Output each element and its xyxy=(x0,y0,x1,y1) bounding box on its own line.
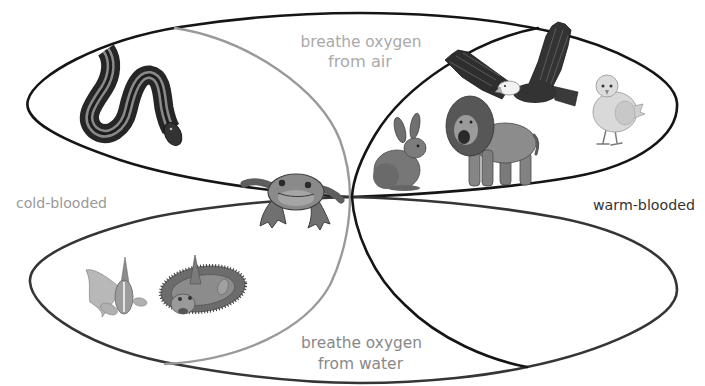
chick-icon xyxy=(593,75,645,145)
chick-tail xyxy=(634,104,645,118)
eagle-eye xyxy=(504,85,506,87)
chick-left-eye xyxy=(602,85,605,88)
goldfish-icon xyxy=(86,257,148,317)
flounder-mouth xyxy=(178,308,188,314)
cold-set-outline-top xyxy=(175,28,350,197)
lion-front-leg-2 xyxy=(482,150,493,186)
rabbit-feet xyxy=(390,185,420,191)
frog-left-arm xyxy=(244,182,272,186)
frog-right-eye xyxy=(305,182,311,188)
rabbit-right-ear xyxy=(408,112,421,139)
rabbit-eye xyxy=(417,145,420,148)
goldfish-right-fin xyxy=(132,297,147,307)
lion-icon xyxy=(446,96,538,186)
cold-label: cold-blooded xyxy=(16,195,107,211)
chick-right-eye xyxy=(610,85,613,88)
flounder-right-eye xyxy=(188,296,192,300)
flounder-icon xyxy=(157,255,249,318)
eagle-right-wing xyxy=(528,22,571,92)
lion-right-eye xyxy=(470,121,473,124)
air-label-line-2: from air xyxy=(328,53,393,71)
venn-diagram: breathe oxygen from air cold-blooded war… xyxy=(0,0,705,386)
frog-belly xyxy=(278,190,314,206)
snake-icon xyxy=(89,50,185,148)
air-label-line-1: breathe oxygen xyxy=(301,33,422,51)
set-labels: breathe oxygen from air cold-blooded war… xyxy=(16,33,695,373)
flounder-left-eye xyxy=(178,297,182,301)
water-label-line-2: from water xyxy=(318,355,404,373)
lion-left-eye xyxy=(460,121,463,124)
rabbit-left-ear xyxy=(392,116,408,144)
lion-mouth xyxy=(458,130,470,144)
rabbit-head xyxy=(404,138,426,158)
rabbit-haunch xyxy=(373,163,399,189)
frog-left-eye xyxy=(279,180,285,186)
chick-wing xyxy=(615,101,635,125)
snake-eye xyxy=(170,128,173,131)
water-label-line-1: breathe oxygen xyxy=(301,334,422,352)
warm-label: warm-blooded xyxy=(593,197,695,213)
